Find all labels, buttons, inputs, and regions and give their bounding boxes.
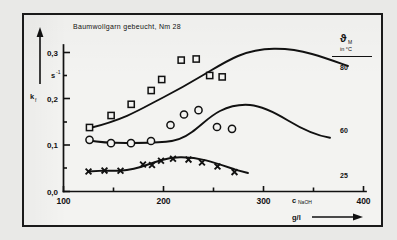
x-axis-label: c: [292, 196, 296, 205]
x-tick-label-200: 200: [156, 196, 170, 206]
series-80: [86, 49, 348, 131]
x-axis-label-subscript: NaOH: [298, 199, 312, 205]
series-80-marker: [86, 124, 92, 130]
x-axis-arrow-head: [353, 213, 363, 220]
y-tick-label-02: 0,2: [47, 95, 59, 104]
series-25-line: [88, 157, 248, 173]
chart-title: Baumwollgarn gebeucht, Nm 28: [73, 23, 181, 31]
y-tick-label-03: 0,3: [47, 49, 59, 58]
x-tick-label-100: 100: [56, 196, 70, 206]
legend-symbol-subscript: M: [348, 39, 352, 45]
y-axis-unit-exponent: -1: [56, 69, 61, 75]
series-60-marker: [86, 136, 93, 143]
x-axis-label-group: c NaOH g/l: [292, 196, 363, 222]
series-25-marker: [199, 160, 205, 166]
series-80-marker: [159, 76, 165, 82]
series-60-marker: [228, 125, 235, 132]
legend-entry-25: 25: [340, 172, 348, 179]
series-60-marker: [167, 121, 174, 128]
y-axis-ticks: [64, 53, 71, 192]
series-80-marker: [219, 74, 225, 80]
figure-root: Baumwollgarn gebeucht, Nm 28 0,3 0,2: [0, 0, 397, 240]
legend: ϑ M in °C 80 60 25: [332, 32, 372, 179]
series-60-marker: [107, 140, 114, 147]
legend-unit: in °C: [340, 46, 352, 52]
x-tick-label-400: 400: [356, 196, 370, 206]
series-60-marker: [180, 111, 187, 118]
series-60-line: [89, 105, 330, 143]
series-60: [86, 105, 330, 147]
series-60-marker: [127, 140, 134, 147]
series-80-marker: [148, 87, 154, 93]
y-axis-label-subscript: f: [35, 97, 37, 103]
series-80-marker: [108, 112, 114, 118]
y-axis-arrow: [37, 27, 44, 84]
series-60-marker: [213, 123, 220, 130]
chart-canvas: Baumwollgarn gebeucht, Nm 28 0,3 0,2: [0, 0, 397, 240]
series-80-marker: [178, 57, 184, 63]
series-60-marker: [147, 137, 154, 144]
series-80-marker: [207, 72, 213, 78]
series-60-marker: [195, 107, 202, 114]
x-tick-label-300: 300: [256, 196, 270, 206]
legend-entry-60: 60: [340, 127, 348, 134]
legend-entry-80: 80: [340, 64, 348, 71]
legend-symbol: ϑ: [340, 32, 347, 44]
y-axis-unit: s: [51, 71, 55, 80]
series-25: [86, 156, 248, 175]
series-80-marker: [128, 101, 134, 107]
series-80-line: [90, 49, 348, 128]
x-tick-labels: 100 200 300 400: [56, 196, 370, 206]
y-tick-label-01: 0,1: [47, 141, 59, 150]
x-axis-unit: g/l: [292, 213, 301, 222]
series-80-marker: [193, 56, 199, 62]
